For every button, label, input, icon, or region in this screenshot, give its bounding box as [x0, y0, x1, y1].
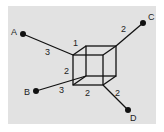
diagram-panel — [8, 6, 156, 124]
graph-diagram: ABCD3322122 — [0, 0, 164, 132]
edge-weight-d: 2 — [115, 88, 120, 98]
node-label-c: C — [148, 12, 155, 22]
cube-edge-weight: 2 — [85, 88, 90, 98]
node-b — [33, 88, 39, 94]
edge-weight-b: 3 — [59, 85, 64, 95]
node-label-b: B — [24, 87, 30, 97]
node-c — [140, 20, 146, 26]
cube-edge-weight: 2 — [64, 66, 69, 76]
node-label-d: D — [130, 113, 137, 123]
edge-weight-c: 2 — [121, 24, 126, 34]
cube-edge-weight: 1 — [73, 38, 78, 48]
node-label-a: A — [11, 27, 17, 37]
node-a — [20, 31, 26, 37]
edge-weight-a: 3 — [45, 47, 50, 57]
